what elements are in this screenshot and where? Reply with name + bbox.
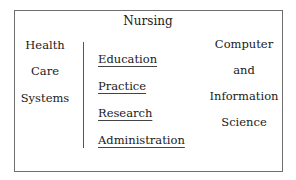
domain-item-research: Research bbox=[98, 105, 152, 121]
diagram-title: Nursing bbox=[0, 13, 296, 29]
domain-item-education: Education bbox=[98, 51, 157, 67]
right-column-line: Science bbox=[204, 114, 284, 130]
right-column-line: Computer bbox=[204, 36, 284, 52]
left-column-line: Care bbox=[14, 63, 76, 79]
right-column-line: and bbox=[204, 62, 284, 78]
vertical-divider bbox=[83, 42, 84, 148]
domain-item-practice: Practice bbox=[98, 78, 146, 94]
left-column-line: Systems bbox=[14, 90, 76, 106]
domain-item-administration: Administration bbox=[98, 132, 185, 148]
left-column-line: Health bbox=[14, 37, 76, 53]
right-column-line: Information bbox=[204, 88, 284, 104]
